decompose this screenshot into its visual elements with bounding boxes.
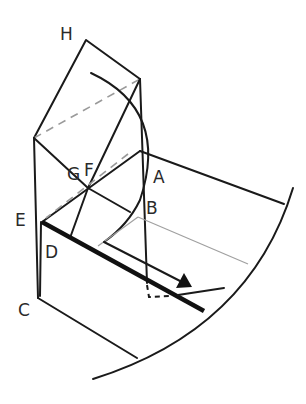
label-b: B <box>146 198 158 218</box>
top-square-edges <box>34 40 140 138</box>
left-vertical-edge <box>34 138 38 298</box>
label-h: H <box>60 24 73 44</box>
guide-line-b-to-arc <box>138 217 248 264</box>
label-e: E <box>15 210 26 230</box>
label-a: A <box>153 167 165 187</box>
label-d: D <box>45 242 58 262</box>
edge-top-right-to-gf <box>88 79 140 188</box>
edge-left-to-b <box>34 138 130 212</box>
label-c: C <box>18 300 30 320</box>
edge-near-arrow-to-arc <box>178 288 224 295</box>
label-g: G <box>67 164 80 184</box>
geometry-diagram: H G F A B E D C <box>0 0 306 404</box>
edge-c-to-arc <box>38 298 137 358</box>
label-f: F <box>84 160 94 180</box>
inner-vertical-edge <box>40 222 41 296</box>
